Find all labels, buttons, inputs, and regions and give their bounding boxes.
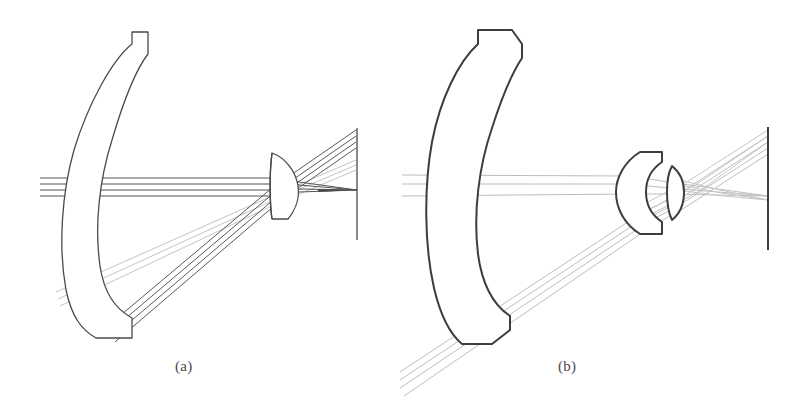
panel-a-caption: (a) [175,358,193,375]
panel-a-primary-mirror [62,32,148,338]
optical-figure: (a) (b) [0,0,800,403]
panel-a [40,32,357,342]
panel-b-field-lens [616,152,662,234]
panel-b [400,30,768,396]
optics-diagram [0,0,800,403]
panel-a-offaxis-dark-rays [103,130,356,342]
panel-a-corrector-lens [270,153,298,219]
panel-b-primary-mirror [426,30,522,344]
panel-b-relay-lens [667,166,684,220]
panel-b-caption: (b) [558,358,576,375]
